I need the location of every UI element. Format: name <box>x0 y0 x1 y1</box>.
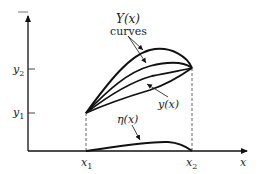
ycurves-label-title: Y(x) <box>116 12 140 26</box>
eta-leader <box>132 125 140 140</box>
ycurves-arrow-2 <box>128 36 146 63</box>
diagram-canvas: Y(x) curves y(x) η(x) y2 y1 x1 x2 x <box>0 0 262 174</box>
ycurves-label-sub: curves <box>110 25 147 38</box>
x-axis-label: x <box>240 156 247 169</box>
x2-label: x2 <box>186 156 197 171</box>
y1-label: y1 <box>12 106 24 121</box>
eta-label: η(x) <box>117 113 138 126</box>
extremal-label: y(x) <box>157 98 179 111</box>
curve-eta <box>86 142 192 151</box>
y2-label: y2 <box>12 63 24 78</box>
x1-label: x1 <box>81 156 92 171</box>
